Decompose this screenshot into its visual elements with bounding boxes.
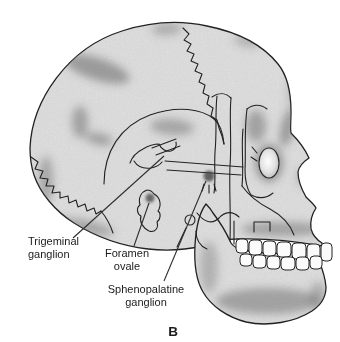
- label-line: Foramen: [98, 247, 156, 260]
- tooth: [321, 243, 332, 261]
- label-line: ovale: [98, 260, 156, 273]
- tooth: [277, 242, 291, 257]
- label-line: ganglion: [28, 248, 79, 261]
- tooth: [267, 256, 280, 269]
- tooth: [263, 241, 276, 256]
- label-line: ganglion: [104, 296, 188, 309]
- figure-panel: Trigeminal ganglion Foramen ovale Spheno…: [0, 0, 340, 342]
- tooth: [296, 257, 309, 270]
- panel-letter: B: [160, 324, 186, 339]
- tooth: [249, 240, 262, 255]
- label-line: Trigeminal: [28, 235, 79, 248]
- label-line: Sphenopalatine: [104, 283, 188, 296]
- tooth: [310, 256, 322, 269]
- label-trigeminal-ganglion: Trigeminal ganglion: [28, 235, 79, 260]
- label-foramen-ovale: Foramen ovale: [98, 247, 156, 272]
- tooth: [240, 254, 252, 266]
- tooth: [281, 257, 295, 270]
- tooth: [253, 255, 266, 268]
- zygomatic-suture: [242, 129, 243, 186]
- orbit-opening: [259, 148, 279, 178]
- label-sphenopalatine-ganglion: Sphenopalatine ganglion: [104, 283, 188, 308]
- marker-foramen-ovale: [146, 194, 155, 203]
- tooth: [236, 239, 248, 253]
